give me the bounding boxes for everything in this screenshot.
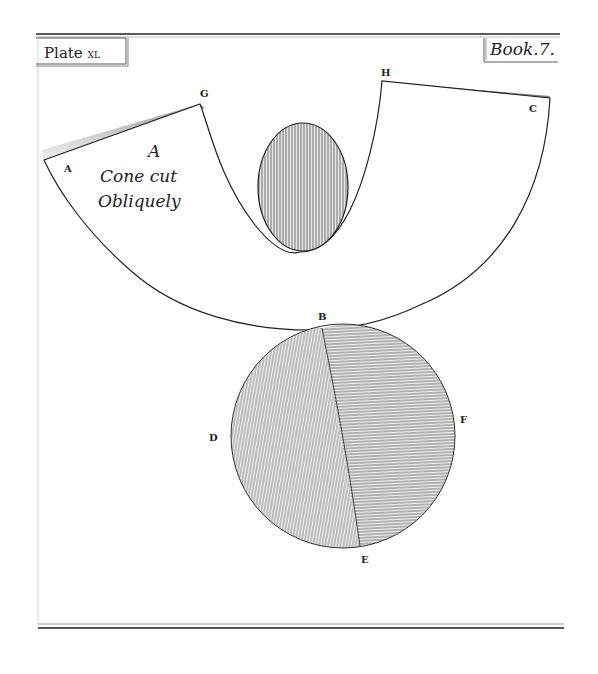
point-label-h: H (381, 67, 390, 78)
plate-engraving: Plate XL Book.7. A Cone cut Obliquely A … (0, 0, 598, 674)
plate-title: Plate XL (44, 44, 100, 62)
caption-line-2: Cone cut (100, 166, 177, 186)
base-circle (231, 324, 455, 548)
book-label: Book.7. (489, 39, 555, 59)
ellipse-section (258, 123, 348, 251)
point-label-b: B (318, 311, 326, 322)
caption-line-1: A (146, 141, 160, 161)
point-label-g: G (200, 88, 209, 99)
point-label-d: D (209, 432, 218, 443)
point-label-e: E (361, 554, 369, 565)
caption-line-3: Obliquely (98, 191, 181, 211)
point-label-c: C (529, 103, 537, 114)
point-label-f: F (460, 414, 467, 425)
point-label-a: A (63, 163, 72, 174)
